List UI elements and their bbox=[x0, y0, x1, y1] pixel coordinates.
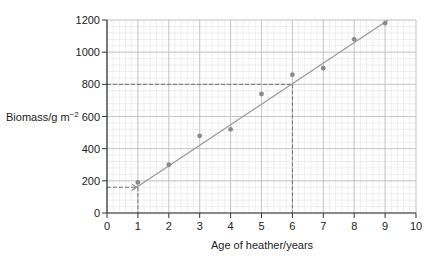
data-point bbox=[197, 133, 202, 138]
x-tick-label: 10 bbox=[410, 220, 422, 232]
y-tick-label: 1200 bbox=[76, 14, 100, 26]
data-point bbox=[136, 180, 141, 185]
y-tick-label: 0 bbox=[94, 207, 100, 219]
data-point bbox=[290, 72, 295, 77]
x-tick-label: 9 bbox=[382, 220, 388, 232]
x-tick-label: 1 bbox=[135, 220, 141, 232]
data-point bbox=[259, 92, 264, 97]
y-tick-label: 800 bbox=[82, 78, 100, 90]
y-tick-label: 400 bbox=[82, 143, 100, 155]
x-tick-label: 0 bbox=[104, 220, 110, 232]
x-tick-label: 3 bbox=[197, 220, 203, 232]
x-tick-label: 5 bbox=[258, 220, 264, 232]
x-tick-label: 6 bbox=[289, 220, 295, 232]
x-axis-ticks: 012345678910 bbox=[104, 213, 422, 232]
y-tick-label: 600 bbox=[82, 111, 100, 123]
y-axis-title: Biomass/g m−2 bbox=[6, 110, 79, 123]
data-point bbox=[228, 127, 233, 132]
data-point bbox=[383, 21, 388, 26]
major-grid bbox=[107, 20, 416, 213]
x-tick-label: 7 bbox=[320, 220, 326, 232]
data-point bbox=[352, 37, 357, 42]
x-tick-label: 2 bbox=[166, 220, 172, 232]
x-axis-title: Age of heather/years bbox=[211, 239, 314, 251]
x-tick-label: 4 bbox=[228, 220, 234, 232]
y-tick-label: 200 bbox=[82, 175, 100, 187]
y-tick-label: 1000 bbox=[76, 46, 100, 58]
biomass-chart: 012345678910 020040060080010001200 Age o… bbox=[0, 0, 433, 261]
y-axis-ticks: 020040060080010001200 bbox=[76, 14, 107, 219]
x-tick-label: 8 bbox=[351, 220, 357, 232]
data-point bbox=[321, 66, 326, 71]
data-point bbox=[166, 162, 171, 167]
